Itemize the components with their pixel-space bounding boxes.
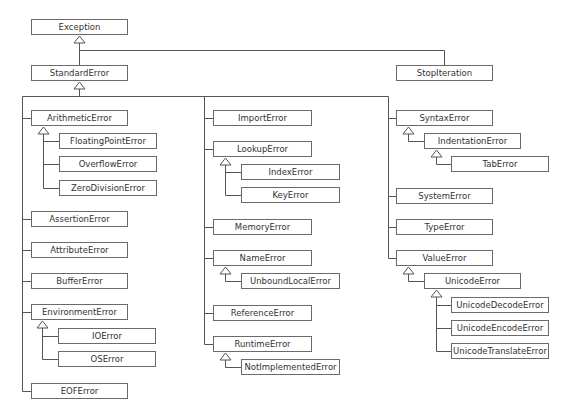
class-node-key-error: KeyError [241, 187, 340, 203]
class-node-unicode-translate-error: UnicodeTranslateError [451, 343, 549, 359]
exception-hierarchy-diagram: ExceptionStandardErrorStopIterationArith… [0, 0, 569, 417]
class-node-standard-error: StandardError [31, 65, 128, 81]
class-node-arithmetic-error: ArithmeticError [31, 110, 128, 126]
class-node-name-error: NameError [213, 250, 312, 266]
class-node-environment-error: EnvironmentError [31, 304, 128, 320]
class-node-unicode-encode-error: UnicodeEncodeError [451, 320, 549, 336]
class-node-eoferror: EOFError [31, 383, 128, 399]
class-node-import-error: ImportError [213, 110, 312, 126]
class-node-runtime-error: RuntimeError [213, 336, 312, 352]
class-node-reference-error: ReferenceError [213, 305, 312, 321]
class-node-indentation-error: IndentationError [424, 133, 521, 149]
class-node-memory-error: MemoryError [213, 219, 312, 235]
class-node-floating-point-error: FloatingPointError [59, 133, 157, 149]
class-node-type-error: TypeError [396, 219, 493, 235]
class-node-unicode-decode-error: UnicodeDecodeError [451, 297, 549, 313]
class-node-attribute-error: AttributeError [31, 242, 128, 258]
class-node-assertion-error: AssertionError [31, 211, 128, 227]
class-node-not-implemented-error: NotImplementedError [241, 359, 340, 375]
class-node-syntax-error: SyntaxError [396, 110, 493, 126]
class-node-exception: Exception [31, 19, 128, 35]
class-node-value-error: ValueError [396, 250, 493, 266]
class-node-oserror: OSError [58, 351, 156, 367]
class-node-lookup-error: LookupError [213, 141, 312, 157]
class-node-system-error: SystemError [396, 188, 493, 204]
class-node-buffer-error: BufferError [31, 273, 128, 289]
class-node-zero-division-error: ZeroDivisionError [59, 180, 157, 196]
class-node-unbound-local-error: UnboundLocalError [241, 273, 340, 289]
class-node-unicode-error: UnicodeError [424, 273, 521, 289]
class-node-index-error: IndexError [241, 164, 340, 180]
class-node-stop-iteration: StopIteration [396, 65, 493, 81]
class-node-ioerror: IOError [58, 328, 156, 344]
class-node-overflow-error: OverflowError [59, 156, 157, 172]
class-node-tab-error: TabError [451, 156, 549, 172]
